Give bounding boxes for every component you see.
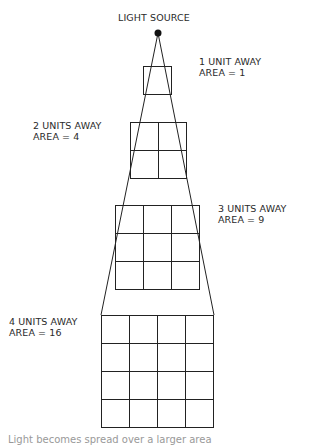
cone-left-edge: [101, 33, 158, 315]
level-4-label: 4 UNITS AWAY AREA = 16: [9, 316, 77, 338]
level-1-label: 1 UNIT AWAY AREA = 1: [199, 56, 261, 78]
light-source-label: LIGHT SOURCE: [118, 12, 190, 23]
grid-4-units: [102, 316, 214, 428]
level-1-area: AREA = 1: [199, 67, 261, 78]
level-2-label: 2 UNITS AWAY AREA = 4: [33, 120, 101, 142]
figure-caption: Light becomes spread over a larger area: [8, 434, 212, 445]
level-4-area: AREA = 16: [9, 327, 77, 338]
grid-2-units: [131, 123, 187, 179]
level-2-distance: 2 UNITS AWAY: [33, 120, 101, 131]
level-3-distance: 3 UNITS AWAY: [218, 203, 286, 214]
level-3-label: 3 UNITS AWAY AREA = 9: [218, 203, 286, 225]
light-source-icon: [155, 30, 162, 37]
level-4-distance: 4 UNITS AWAY: [9, 316, 77, 327]
grid-3-units: [116, 206, 200, 290]
level-1-distance: 1 UNIT AWAY: [199, 56, 261, 67]
level-3-area: AREA = 9: [218, 214, 286, 225]
level-2-area: AREA = 4: [33, 131, 101, 142]
